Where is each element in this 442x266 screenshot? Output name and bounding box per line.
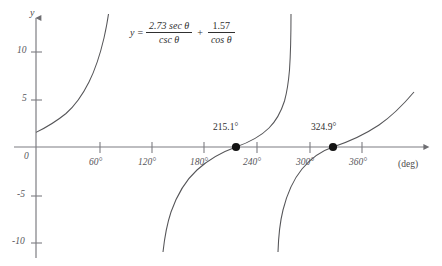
x-axis-unit-label: (deg) (398, 160, 418, 170)
x-tick-label-60: 60° (89, 158, 102, 168)
curve-branch-3 (278, 92, 414, 252)
x-tick-label-360: 360° (349, 158, 367, 168)
x-tick-label-120: 120° (138, 158, 156, 168)
y-axis-label: y (30, 8, 34, 18)
equation-equals: = (137, 27, 143, 38)
equation-term-2-numerator: 1.57 (210, 20, 234, 32)
y-tick-label-0: 0 (24, 152, 29, 162)
curve-branch-2 (163, 14, 291, 252)
equation-term-2: 1.57 cos θ (208, 20, 235, 45)
y-tick-label-10: 10 (17, 46, 27, 56)
y-tick-label-neg5: -5 (17, 190, 25, 200)
equation-label: y = 2.73 sec θ csc θ + 1.57 cos θ (130, 20, 235, 45)
figure-graph-trig-function: y = 2.73 sec θ csc θ + 1.57 cos θ y (deg… (0, 0, 442, 266)
curve-branch-1 (36, 14, 109, 132)
marked-point-215 (232, 143, 240, 151)
x-tick-label-300: 300° (296, 158, 314, 168)
annotation-label-325: 324.9° (311, 123, 336, 133)
x-tick-label-240: 240° (243, 158, 261, 168)
y-tick-label-neg10: -10 (12, 237, 25, 247)
equation-lhs: y (130, 27, 134, 38)
equation-term-1-denominator: csc θ (156, 33, 182, 45)
equation-term-1: 2.73 sec θ csc θ (146, 20, 192, 45)
equation-term-2-denominator: cos θ (208, 33, 235, 45)
x-tick-label-180: 180° (190, 158, 208, 168)
equation-term-1-numerator: 2.73 sec θ (146, 20, 192, 32)
annotation-label-215: 215.1° (213, 123, 238, 133)
marked-point-325 (329, 143, 337, 151)
equation-operator: + (197, 27, 203, 38)
y-tick-label-5: 5 (22, 94, 27, 104)
